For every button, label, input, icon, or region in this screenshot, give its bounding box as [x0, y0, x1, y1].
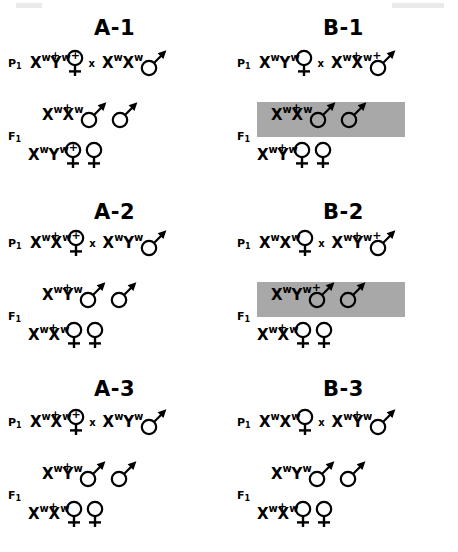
- allele-gene-letter: X: [257, 146, 269, 164]
- cross-multiply-symbol: x: [318, 238, 324, 249]
- allele-gene-letter: X: [259, 413, 271, 431]
- father-genotype: Xw+Yw+: [332, 236, 367, 251]
- cross-multiply-symbol: x: [318, 417, 324, 428]
- cross-multiply-symbol: x: [317, 58, 323, 69]
- allele-gene-letter: X: [63, 106, 75, 124]
- female-symbol-icon: [85, 320, 105, 350]
- cross-panel-b-3: B-3P1XwXwxXw+YwF1XwYwXw+Xw: [229, 365, 458, 552]
- allele-gene-letter: X: [30, 413, 42, 431]
- allele-plus-sign: +: [69, 141, 78, 154]
- f1-son-genotype: XwYw+: [271, 288, 306, 303]
- f1-daughter-genotype: Xw+Xw: [257, 328, 293, 343]
- cross-panel-a-1: A-1P1Xw+Yw+xXwXwF1Xw+XwXwYw+: [0, 0, 229, 190]
- gen-label-subscript: 1: [245, 315, 251, 324]
- mother-allele: Xw: [280, 236, 292, 251]
- cross-multiply-symbol: x: [89, 238, 95, 249]
- allele-gene-letter: X: [257, 326, 269, 344]
- allele-gene-letter: X: [351, 54, 363, 72]
- allele-gene-letter: X: [51, 413, 63, 431]
- father-genotype: XwXw: [102, 56, 138, 71]
- allele-gene-letter: X: [280, 413, 292, 431]
- allele-superscript: w: [283, 285, 292, 295]
- allele-plus-sign: +: [372, 229, 381, 242]
- f1-male-offspring-row: Xw+Yw: [42, 280, 138, 310]
- female-symbol-icon: [314, 499, 334, 529]
- f1-generation-label: F1: [8, 130, 21, 144]
- gen-label-subscript: 1: [245, 242, 251, 251]
- allele-gene-letter: X: [51, 234, 63, 252]
- mother-allele: Xw: [280, 415, 292, 430]
- mother-genotype: Xw+Xw+: [30, 236, 66, 251]
- allele-gene-letter: X: [103, 234, 115, 252]
- allele-superscript: w: [60, 325, 69, 335]
- allele-gene-letter: Y: [352, 413, 363, 431]
- parental-cross-row: Xw+Xw+xXwYw: [30, 228, 168, 258]
- f1-generation-label: F1: [8, 310, 21, 324]
- allele-plus-sign: +: [372, 49, 381, 62]
- allele-gene-letter: Y: [63, 286, 74, 304]
- f1-daughter-allele: Xw: [49, 328, 61, 343]
- f1-male-offspring-row: Xw+Xw: [42, 100, 139, 130]
- f1-daughter-genotype: Xw+Xw: [28, 328, 64, 343]
- f1-generation-label: F1: [237, 310, 250, 324]
- f1-female-offspring-row: Xw+Xw: [257, 320, 334, 350]
- allele-gene-letter: X: [259, 54, 271, 72]
- father-allele: Xw: [103, 415, 115, 430]
- f1-daughter-allele: Yw+: [49, 148, 60, 163]
- parental-generation-label: P1: [8, 237, 22, 251]
- gen-label-subscript: 1: [16, 242, 22, 251]
- f1-son-allele: Xw+: [271, 108, 283, 123]
- f1-generation-label: F1: [237, 130, 250, 144]
- gen-label-letter: P: [237, 237, 245, 250]
- father-allele: Xw: [103, 236, 115, 251]
- mother-allele: Xw+: [30, 415, 42, 430]
- father-genotype: Xw+Xw+: [331, 56, 367, 71]
- allele-superscript: w: [288, 145, 297, 155]
- father-genotype: Xw+Yw: [332, 415, 367, 430]
- panel-title: B-2: [229, 200, 458, 224]
- parental-generation-label: P1: [8, 57, 22, 71]
- allele-gene-letter: X: [42, 286, 54, 304]
- female-symbol-icon: [313, 140, 333, 170]
- f1-daughter-allele: Xw: [278, 507, 290, 522]
- f1-daughter-sex-symbols: [293, 499, 334, 529]
- f1-female-offspring-row: Xw+Xw: [28, 320, 105, 350]
- father-allele: Yw: [123, 236, 134, 251]
- father-genotype: XwYw: [103, 236, 138, 251]
- allele-gene-letter: X: [292, 106, 304, 124]
- allele-superscript: w: [291, 233, 300, 243]
- f1-male-offspring-row: XwYw: [271, 459, 367, 489]
- male-symbol-icon: [338, 100, 368, 130]
- gen-label-letter: F: [8, 130, 16, 143]
- panel-title: B-1: [229, 16, 458, 40]
- f1-daughter-sex-symbols: [293, 320, 334, 350]
- allele-gene-letter: Y: [292, 286, 303, 304]
- parental-cross-row: XwXwxXw+Yw: [259, 407, 397, 437]
- parental-generation-label: P1: [237, 237, 251, 251]
- f1-son-genotype: Xw+Xw: [42, 108, 78, 123]
- mother-allele: Yw: [280, 56, 291, 71]
- f1-male-offspring-row: Xw+Yw: [42, 459, 138, 489]
- parental-generation-label: P1: [237, 416, 251, 430]
- allele-gene-letter: X: [271, 465, 283, 483]
- allele-gene-letter: X: [42, 106, 54, 124]
- f1-son-allele: Xw: [271, 288, 283, 303]
- f1-son-sex-symbols: [78, 100, 139, 130]
- mother-allele: Xw+: [30, 56, 42, 71]
- f1-female-offspring-row: Xw+Yw: [257, 140, 333, 170]
- f1-daughter-genotype: XwYw+: [28, 148, 63, 163]
- mother-genotype: Xw+Xw+: [30, 415, 66, 430]
- cross-panel-a-2: A-2P1Xw+Xw+xXwYwF1Xw+YwXw+Xw: [0, 190, 229, 365]
- mother-allele: Xw: [259, 415, 271, 430]
- panel-title: A-1: [0, 16, 229, 40]
- allele-gene-letter: X: [280, 234, 292, 252]
- female-symbol-icon: [85, 499, 105, 529]
- f1-daughter-sex-symbols: [64, 499, 105, 529]
- allele-superscript: w: [271, 233, 280, 243]
- allele-gene-letter: X: [257, 505, 269, 523]
- f1-son-sex-symbols: [77, 280, 138, 310]
- f1-daughter-allele: Xw+: [28, 328, 40, 343]
- allele-superscript: w+: [363, 230, 381, 243]
- parental-generation-label: P1: [8, 416, 22, 430]
- allele-gene-letter: X: [30, 234, 42, 252]
